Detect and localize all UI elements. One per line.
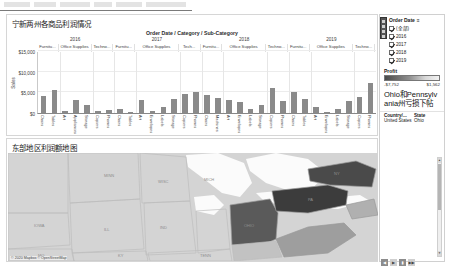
svg-text:OHIO: OHIO <box>244 223 254 228</box>
x-axis-label: Storage <box>346 115 350 129</box>
bar[interactable] <box>259 105 265 113</box>
x-axis-label: Art <box>226 115 230 120</box>
y-axis-title: Sales <box>11 77 16 89</box>
bar[interactable] <box>270 88 276 113</box>
bar[interactable] <box>237 102 243 113</box>
scroll-up-arrow[interactable]: ▲ <box>438 158 441 163</box>
x-axis-label: Copiers <box>95 115 99 128</box>
year-header-2019: 2019 <box>288 37 375 42</box>
filter-option-label: 2016 <box>396 34 406 39</box>
bar[interactable] <box>357 97 363 113</box>
svg-text:WISC: WISC <box>158 179 169 184</box>
bar[interactable] <box>73 100 79 113</box>
profit-color-gradient <box>384 75 440 81</box>
checkbox-icon[interactable] <box>389 26 394 31</box>
category-separator <box>136 52 137 113</box>
top-toolbar <box>0 0 192 11</box>
category-separator <box>289 52 290 113</box>
bar[interactable] <box>84 105 90 113</box>
bar[interactable] <box>302 99 308 113</box>
bar[interactable] <box>226 100 232 113</box>
bar[interactable] <box>346 101 352 113</box>
x-axis-label: Tables <box>128 115 132 126</box>
bar[interactable] <box>62 111 68 113</box>
x-axis-label: Tables <box>302 115 306 126</box>
x-axis-label: Storage <box>259 115 263 129</box>
svg-text:PA: PA <box>308 197 313 202</box>
filter-option-(全部)[interactable]: (全部) <box>389 24 441 32</box>
bar[interactable] <box>193 92 199 113</box>
profit-map-panel[interactable]: 东部地区利润额地图 <box>6 138 378 262</box>
category-separator <box>114 52 115 113</box>
bar[interactable] <box>335 109 341 113</box>
x-axis-label: Chairs <box>204 115 208 126</box>
bar[interactable] <box>139 100 145 113</box>
x-axis-label: Tables <box>51 115 55 126</box>
filter-option-label: 2019 <box>396 58 406 63</box>
checkbox-icon[interactable] <box>389 42 394 47</box>
filter-option-label: 2017 <box>396 42 406 47</box>
scrollbar-thumb[interactable] <box>438 164 441 210</box>
year-header-2016: 2016 <box>37 37 113 42</box>
x-axis-label: Phones <box>193 115 197 128</box>
chart-area: Order Date / Category / Sub-Category 201… <box>7 29 377 135</box>
filter-option-2019[interactable]: 2019 <box>389 56 441 64</box>
bar[interactable] <box>41 96 47 113</box>
bar[interactable] <box>248 109 254 113</box>
bar[interactable] <box>106 110 112 113</box>
bar[interactable] <box>313 107 319 113</box>
toolbar-ghost-item <box>146 2 186 7</box>
category-separator <box>93 52 94 113</box>
filter-option-2016[interactable]: 2016 <box>389 32 441 40</box>
bar[interactable] <box>161 107 167 113</box>
nav-next-button[interactable]: ▶ <box>390 259 397 266</box>
plot-area[interactable] <box>37 52 376 114</box>
x-axis-label: Envelopes <box>237 115 241 133</box>
nav-end-button[interactable]: ▶▶ <box>408 259 415 266</box>
dashboard-left-column: 宁新两州各商品利润情况 Order Date / Category / Sub-… <box>6 14 378 262</box>
chevron-down-icon[interactable]: ≡ <box>417 17 420 23</box>
sales-bar-chart-panel[interactable]: 宁新两州各商品利润情况 Order Date / Category / Sub-… <box>6 14 378 136</box>
toolbar-ghost-item <box>4 2 30 7</box>
filter-option-2018[interactable]: 2018 <box>389 48 441 56</box>
bar[interactable] <box>215 98 221 113</box>
bar[interactable] <box>128 112 134 113</box>
filter-title-text: Order Date <box>389 17 415 23</box>
bar[interactable] <box>368 83 374 113</box>
svg-text:MICH: MICH <box>204 177 214 182</box>
x-axis-label: Appliances <box>73 115 77 134</box>
checkbox-icon[interactable] <box>389 34 394 39</box>
svg-text:TENN: TENN <box>200 253 211 258</box>
bar[interactable] <box>52 90 58 113</box>
bar[interactable] <box>182 94 188 113</box>
x-axis-label: Art <box>139 115 143 120</box>
checkbox-icon[interactable] <box>389 50 394 55</box>
x-axis-label: Phones <box>280 115 284 128</box>
checkbox-icon[interactable] <box>389 58 394 63</box>
bottom-navigation-bar[interactable]: ◀ ▶ ▮ ▶▶ <box>379 258 445 267</box>
scroll-down-arrow[interactable]: ▼ <box>438 251 441 256</box>
bar[interactable] <box>117 109 123 113</box>
bar[interactable] <box>324 112 330 113</box>
bar[interactable] <box>95 111 101 113</box>
bar[interactable] <box>291 92 297 113</box>
bar[interactable] <box>204 95 210 113</box>
gridline <box>38 71 376 72</box>
table-vertical-scrollbar[interactable]: ▲ ▼ <box>437 157 442 257</box>
chart-header-label: Order Date / Category / Sub-Category <box>7 30 377 36</box>
map-canvas[interactable]: MINN WISC MICH IOWA ILL IND OHIO PA NY M… <box>8 153 378 261</box>
svg-text:MINN: MINN <box>104 173 114 178</box>
filter-option-2017[interactable]: 2017 <box>389 40 441 48</box>
order-date-filter-list[interactable]: (全部)2016201720182019 <box>380 24 444 66</box>
profit-legend-title: Profit <box>380 66 444 75</box>
category-separator <box>311 52 312 113</box>
nav-prev-button[interactable]: ◀ <box>381 259 388 266</box>
bar[interactable] <box>171 99 177 113</box>
x-axis-label: Storage <box>84 115 88 129</box>
table-row[interactable]: United States Ohio <box>380 118 444 124</box>
bar[interactable] <box>280 101 286 113</box>
bar[interactable] <box>150 111 156 113</box>
filter-drag-handle[interactable] <box>380 17 387 39</box>
nav-stop-button[interactable]: ▮ <box>399 259 406 266</box>
annotation-note: Ohio和Pennsylvania州亏损下帖 <box>380 87 444 111</box>
